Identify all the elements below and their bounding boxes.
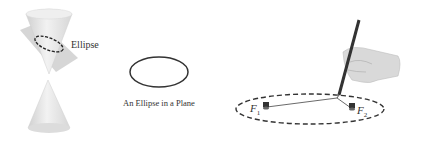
plane-ellipse-caption: An Ellipse in a Plane bbox=[123, 98, 195, 108]
focus-f2-label: F2 bbox=[356, 104, 368, 119]
string-line bbox=[267, 98, 351, 108]
ellipse-in-plane-diagram: An Ellipse in a Plane bbox=[123, 57, 195, 108]
ellipse-figure: Ellipse An Ellipse in a Plane F1 bbox=[0, 0, 421, 146]
pin-f1-icon bbox=[263, 102, 269, 110]
plane-ellipse bbox=[130, 57, 188, 87]
ellipse-label: Ellipse bbox=[71, 39, 99, 50]
double-cone-diagram: Ellipse bbox=[20, 9, 99, 133]
focus-f1-label: F1 bbox=[249, 102, 261, 117]
string-construction-diagram: F1 F2 bbox=[236, 20, 400, 124]
pin-f2-icon bbox=[349, 103, 355, 111]
